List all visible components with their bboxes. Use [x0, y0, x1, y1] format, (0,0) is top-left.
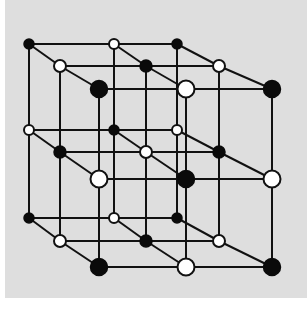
white-atom	[213, 235, 225, 247]
white-atom	[140, 146, 152, 158]
white-atom	[172, 125, 182, 135]
black-atom	[172, 213, 182, 223]
black-atom	[54, 146, 66, 158]
black-atom	[178, 171, 195, 188]
white-atom	[178, 81, 195, 98]
white-atom	[264, 171, 281, 188]
black-atom	[172, 39, 182, 49]
black-atom	[264, 259, 281, 276]
black-atom	[109, 125, 119, 135]
black-atom	[91, 259, 108, 276]
bond-line	[177, 44, 219, 66]
white-atom	[213, 60, 225, 72]
black-atom	[91, 81, 108, 98]
white-atom	[109, 213, 119, 223]
black-atom	[24, 39, 34, 49]
bond-line	[177, 218, 219, 241]
white-atom	[91, 171, 108, 188]
white-atom	[54, 60, 66, 72]
black-atom	[264, 81, 281, 98]
white-atom	[109, 39, 119, 49]
white-atom	[24, 125, 34, 135]
bond-line	[177, 130, 219, 152]
black-atom	[140, 235, 152, 247]
black-atom	[213, 146, 225, 158]
crystal-lattice-diagram	[0, 0, 307, 311]
white-atom	[178, 259, 195, 276]
black-atom	[24, 213, 34, 223]
black-atom	[140, 60, 152, 72]
white-atom	[54, 235, 66, 247]
